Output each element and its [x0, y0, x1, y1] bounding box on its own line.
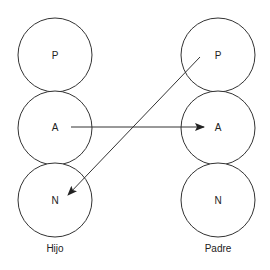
node-hijo-p[interactable]: P [18, 18, 92, 92]
diagram-canvas: P A N Hijo P A N Padre [0, 0, 270, 270]
column-label-hijo: Hijo [46, 243, 64, 254]
column-padre: P A N Padre [181, 18, 255, 254]
node-label: N [51, 195, 58, 206]
node-label: A [52, 122, 59, 133]
column-label-padre: Padre [205, 243, 232, 254]
node-padre-a[interactable]: A [181, 91, 255, 165]
node-label: N [214, 195, 221, 206]
column-hijo: P A N Hijo [18, 18, 92, 254]
node-padre-n[interactable]: N [181, 163, 255, 237]
node-label: P [52, 50, 59, 61]
node-padre-p[interactable]: P [181, 18, 255, 92]
node-hijo-a[interactable]: A [18, 91, 92, 165]
node-label: A [215, 122, 222, 133]
node-label: P [215, 50, 222, 61]
node-hijo-n[interactable]: N [18, 163, 92, 237]
